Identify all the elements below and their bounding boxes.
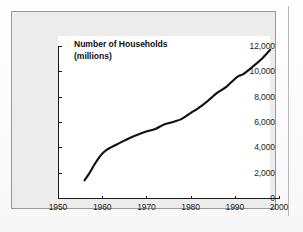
page-edge-rule xyxy=(288,6,289,216)
chart-panel: 02,0004,0006,0008,00010,00012,000 195019… xyxy=(11,11,276,209)
series-layer xyxy=(12,12,277,210)
figure-page: 02,0004,0006,0008,00010,00012,000 195019… xyxy=(0,0,303,232)
x-axis-tick xyxy=(279,196,280,199)
households-line-series xyxy=(85,50,271,180)
